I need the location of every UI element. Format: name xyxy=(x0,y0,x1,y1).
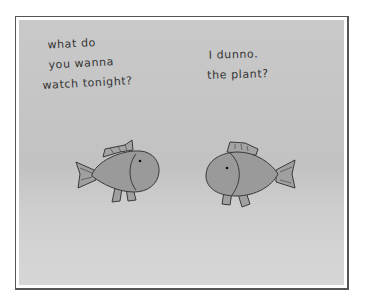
speech-line: the plant? xyxy=(207,64,269,86)
right-fish-icon xyxy=(200,136,300,212)
left-fish-speech: what do you wanna watch tonight? xyxy=(40,31,133,96)
left-fish-icon xyxy=(70,136,165,208)
right-fish-speech: I dunno. the plant? xyxy=(206,44,268,86)
speech-line: I dunno. xyxy=(208,44,268,66)
